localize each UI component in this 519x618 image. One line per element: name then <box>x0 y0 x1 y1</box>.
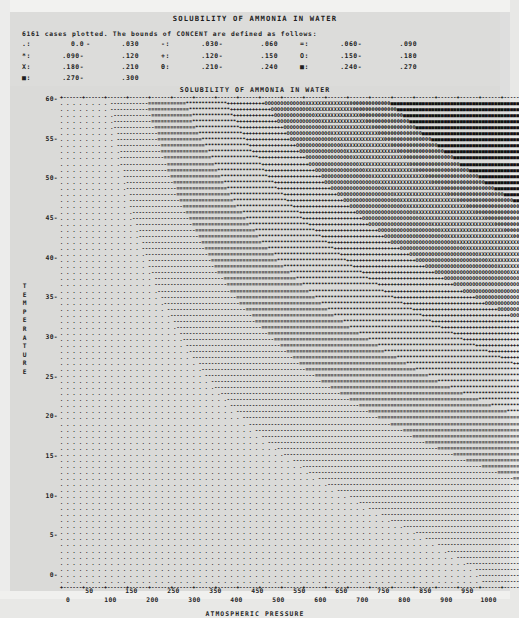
legend-upper-bound: .210 <box>93 62 139 74</box>
legend-symbol: X: <box>22 62 38 74</box>
legend-upper-bound: .030 <box>93 39 139 51</box>
y-axis-label-letter: T <box>20 342 29 351</box>
legend-symbol: -: <box>161 39 177 51</box>
cases-plotted-note: 6161 cases plotted. The bounds of CONCEN… <box>22 30 317 37</box>
legend-gap <box>278 51 300 63</box>
y-axis-tick-label: 15- <box>46 452 58 460</box>
legend-lower-bound: .180- <box>38 62 84 74</box>
plot-grid-row: . . . . . . . . . . . . . . . . . . ----… <box>60 318 519 324</box>
legend-symbol: *: <box>22 51 38 63</box>
legend-upper-bound: .150 <box>232 51 278 63</box>
y-axis-label-letter: E <box>20 368 29 377</box>
plot-grid-row: . . . . . . . . . . .----------------===… <box>60 185 519 191</box>
plot-grid-row: . . . . . . . . . . . . . . . . .-------… <box>60 300 519 306</box>
y-axis-tick-label: 55- <box>46 135 58 143</box>
x-axis-tick-label: 500 <box>272 596 284 603</box>
legend-entry: +:.120-.150 <box>161 51 278 63</box>
legend-entry: =:.060-.090 <box>300 39 417 51</box>
x-axis-tick-label: 450 <box>251 587 263 594</box>
y-axis-label-letter: R <box>20 325 29 334</box>
plot-grid-row: . . . . . . . . . . . . . . . .---------… <box>60 288 519 294</box>
plot-grid-row: . . . . . . . . . . . . . . . . . . . . … <box>60 560 519 566</box>
legend-lower-bound: .060- <box>316 39 362 51</box>
legend-lower-bound: .030- <box>177 39 223 51</box>
x-axis-tick-label: 400 <box>230 596 242 603</box>
x-axis-tick-label: 700 <box>356 596 368 603</box>
legend-lower-bound: .090- <box>38 51 84 63</box>
legend-upper-bound: .090 <box>371 39 417 51</box>
legend-row: *:.090-.120+:.120-.150O:.150-.180 <box>22 51 492 63</box>
y-axis-tick-label: 45- <box>46 214 58 222</box>
legend-entry: O:.150-.180 <box>300 51 417 63</box>
x-axis-tick-label: 550 <box>293 587 305 594</box>
legend-symbol: O: <box>300 51 316 63</box>
legend-symbol: =: <box>300 39 316 51</box>
y-axis-label-letter: M <box>20 299 29 308</box>
plot-grid-row: . . . . . . . . . . . . . . . . . ------… <box>60 306 519 312</box>
plot-grid-row: . . . . . . . . . . . ----------------==… <box>60 197 519 203</box>
y-axis-label-letter: A <box>20 334 29 343</box>
x-axis-tick-label: 800 <box>398 596 410 603</box>
x-axis-tick-label: 50 <box>85 587 93 594</box>
y-axis-tick-label: 30- <box>46 333 58 341</box>
legend-upper-bound: .300 <box>93 74 139 82</box>
plot-grid-row: . . . . . . . . . . . . . . . . . . . . … <box>60 457 519 463</box>
y-axis-label-letter: E <box>20 291 29 300</box>
legend-symbol: Θ: <box>161 62 177 74</box>
legend-upper-bound: .180 <box>371 51 417 63</box>
legend-lower-bound: .270- <box>38 74 84 82</box>
y-axis-label-letter: E <box>20 316 29 325</box>
plot-area: SOLUBILITY OF AMMONIA IN WATER TEMPERATU… <box>10 86 500 591</box>
legend-row: X:.180-.210Θ:.210-.240■:.240-.270 <box>22 62 492 74</box>
legend: .:0.0-.030-:.030-.060=:.060-.090*:.090-.… <box>22 39 492 82</box>
x-axis-tick-label: 900 <box>440 596 452 603</box>
legend-row: ■:.270-.300 <box>22 74 492 82</box>
y-axis-ticks: 60-55-50-45-40-35-30-25-20-15-10-5-0- <box>32 94 58 584</box>
plot-grid-row: . . . . . . . . . . . . . . . . . . . . … <box>60 445 519 451</box>
plot-grid-row: . . . . . . . . . . . . . . . . . . . . … <box>60 541 519 547</box>
legend-lower-bound: .120- <box>177 51 223 63</box>
legend-gap <box>278 39 300 51</box>
legend-entry: X:.180-.210 <box>22 62 139 74</box>
y-axis-tick-label: 35- <box>46 293 58 301</box>
plot-grid-row: . . . . . . . . . . . . . . . . . . . . … <box>60 433 519 439</box>
page-top-margin <box>0 0 510 12</box>
x-axis-tick-label: 650 <box>335 587 347 594</box>
page-left-margin <box>0 0 10 599</box>
plot-grid-row: . . . . . . . . . . . . . . . . . . . . … <box>60 439 519 445</box>
x-axis-tick-label: 0 <box>66 596 70 603</box>
legend-upper-bound: .120 <box>93 51 139 63</box>
x-axis-tick-label: 1000 <box>480 596 496 603</box>
plot-grid-row: . . . . . . . . . . . . . . . . . . . . … <box>60 578 519 584</box>
y-axis-label: TEMPERATURE <box>20 282 29 377</box>
plot-grid-row: . . . . . . . . . . . . . . . . . . . . … <box>60 566 519 572</box>
x-axis-tick-label: 350 <box>209 587 221 594</box>
plot-grid-row: . . . . . . . . . . . . . . . . . . . . … <box>60 548 519 554</box>
y-axis-label-letter: P <box>20 308 29 317</box>
x-axis-tick-label: 950 <box>461 587 473 594</box>
plot-grid-row: . . . . . . . . . . . -----------------=… <box>60 203 519 209</box>
legend-symbol: ■: <box>22 74 38 82</box>
plot-title: SOLUBILITY OF AMMONIA IN WATER <box>10 86 500 94</box>
legend-upper-bound: .270 <box>371 62 417 74</box>
header-block: SOLUBILITY OF AMMONIA IN WATER 6161 case… <box>10 12 500 86</box>
plot-grid-row: . . . . . . . . . . ---------------=====… <box>60 173 519 179</box>
legend-gap <box>139 39 161 51</box>
legend-gap <box>278 62 300 74</box>
plot-grid-row: . . . . . . . . . . --------------======… <box>60 167 519 173</box>
ascii-plot-grid: +------+------+------+------+------+----… <box>60 94 519 590</box>
x-axis-tick-label: 300 <box>188 596 200 603</box>
x-axis-tick-label: 850 <box>419 587 431 594</box>
plot-grid-row: . . . . . . . . . . . . . . . ----------… <box>60 281 519 287</box>
plot-grid-row: . . . . . . . . . . . . . . . . --------… <box>60 294 519 300</box>
plot-grid-row: . . . . . . . . . . . . . . . . . . . . … <box>60 463 519 469</box>
legend-symbol: +: <box>161 51 177 63</box>
legend-entry: ■:.240-.270 <box>300 62 417 74</box>
plot-grid-row: . . . . . . . . . . . . . . . . . .-----… <box>60 312 519 318</box>
plot-grid-row: . . . . . . . . . . . . . . . . . . . . … <box>60 572 519 578</box>
x-axis-tick-label: 100 <box>104 596 116 603</box>
y-axis-tick-label: 10- <box>46 492 58 500</box>
y-axis-label-letter: U <box>20 351 29 360</box>
plot-grid-row: . . . . . . . . . . . ---------------===… <box>60 191 519 197</box>
